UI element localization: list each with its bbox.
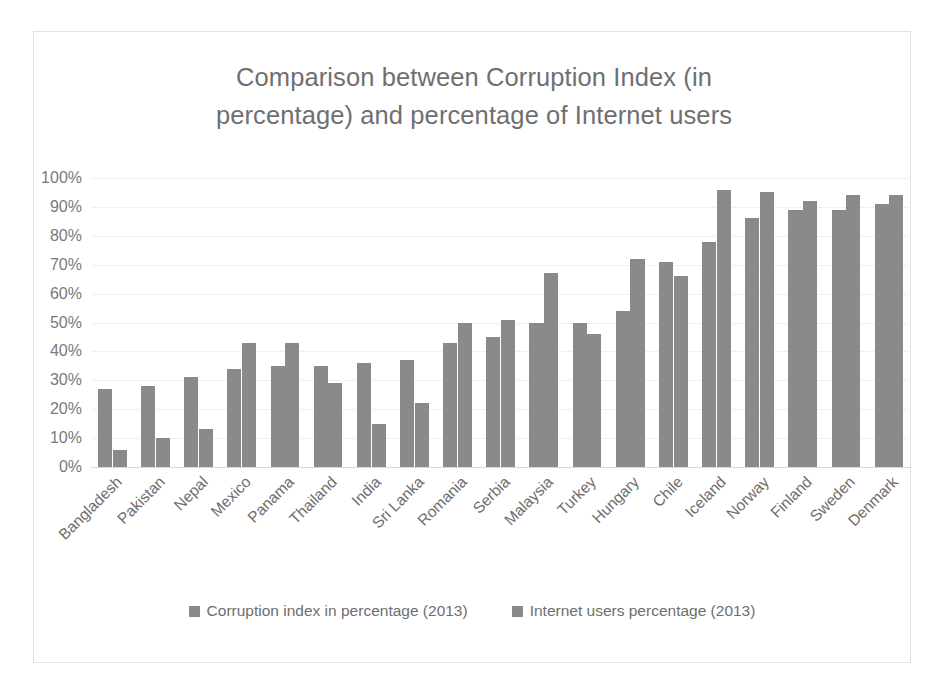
bar [875, 204, 889, 467]
bar-group [875, 178, 904, 467]
legend-label: Internet users percentage (2013) [530, 602, 756, 620]
bar [314, 366, 328, 467]
x-axis: BangladeshPakistanNepalMexicoPanamaThail… [91, 473, 911, 593]
bar-group [184, 178, 213, 467]
bar-group [616, 178, 645, 467]
bar [242, 343, 256, 467]
bar [156, 438, 170, 467]
bar-group [314, 178, 343, 467]
bar [760, 192, 774, 467]
bar [113, 450, 127, 467]
bar-group [573, 178, 602, 467]
y-axis-tick-label: 90% [50, 198, 82, 216]
bar [717, 190, 731, 467]
chart-title-line-2: percentage) and percentage of Internet u… [104, 96, 844, 134]
bar [328, 383, 342, 467]
legend-swatch-icon [512, 606, 523, 617]
bar-group [832, 178, 861, 467]
bar [400, 360, 414, 467]
bar [674, 276, 688, 467]
bar-group [271, 178, 300, 467]
bar [573, 323, 587, 468]
bar [184, 377, 198, 467]
legend-item[interactable]: Corruption index in percentage (2013) [189, 602, 468, 620]
bar-group [357, 178, 386, 467]
bar [659, 262, 673, 467]
y-axis-tick-label: 70% [50, 256, 82, 274]
bar-group [745, 178, 774, 467]
bar [486, 337, 500, 467]
bar [141, 386, 155, 467]
bar [199, 429, 213, 467]
bar [702, 242, 716, 467]
bar [98, 389, 112, 467]
bar-group [788, 178, 817, 467]
bar-group [529, 178, 558, 467]
y-axis-tick-label: 40% [50, 342, 82, 360]
bar [788, 210, 802, 467]
bar [587, 334, 601, 467]
y-axis-tick-label: 0% [59, 458, 82, 476]
bar-group [400, 178, 429, 467]
chart-legend: Corruption index in percentage (2013)Int… [34, 602, 910, 620]
legend-label: Corruption index in percentage (2013) [207, 602, 468, 620]
bar [372, 424, 386, 467]
chart-container: Comparison between Corruption Index (in … [33, 31, 911, 663]
gridline [91, 467, 911, 468]
bar-group [141, 178, 170, 467]
y-axis-tick-label: 30% [50, 371, 82, 389]
bar [227, 369, 241, 467]
bar-group [98, 178, 127, 467]
bar [846, 195, 860, 467]
bar [889, 195, 903, 467]
bar-group [227, 178, 256, 467]
bar [745, 218, 759, 467]
bar [616, 311, 630, 467]
bar-group [443, 178, 472, 467]
y-axis-tick-label: 80% [50, 227, 82, 245]
legend-item[interactable]: Internet users percentage (2013) [512, 602, 756, 620]
bar-group [486, 178, 515, 467]
bar [271, 366, 285, 467]
bar [443, 343, 457, 467]
bar [544, 273, 558, 467]
bar [529, 323, 543, 468]
bar [803, 201, 817, 467]
y-axis-tick-label: 50% [50, 314, 82, 332]
y-axis: 100%90%80%70%60%50%40%30%20%10%0% [34, 178, 86, 467]
y-axis-tick-label: 10% [50, 429, 82, 447]
y-axis-tick-label: 60% [50, 285, 82, 303]
chart-title: Comparison between Corruption Index (in … [104, 58, 844, 134]
bar [357, 363, 371, 467]
bar [501, 320, 515, 467]
bar [630, 259, 644, 467]
y-axis-tick-label: 100% [41, 169, 82, 187]
bar [285, 343, 299, 467]
bar-group [659, 178, 688, 467]
plot-area [91, 178, 911, 467]
bar [458, 323, 472, 468]
y-axis-tick-label: 20% [50, 400, 82, 418]
bar [832, 210, 846, 467]
bar-group [702, 178, 731, 467]
bar [415, 403, 429, 467]
chart-title-line-1: Comparison between Corruption Index (in [104, 58, 844, 96]
legend-swatch-icon [189, 606, 200, 617]
